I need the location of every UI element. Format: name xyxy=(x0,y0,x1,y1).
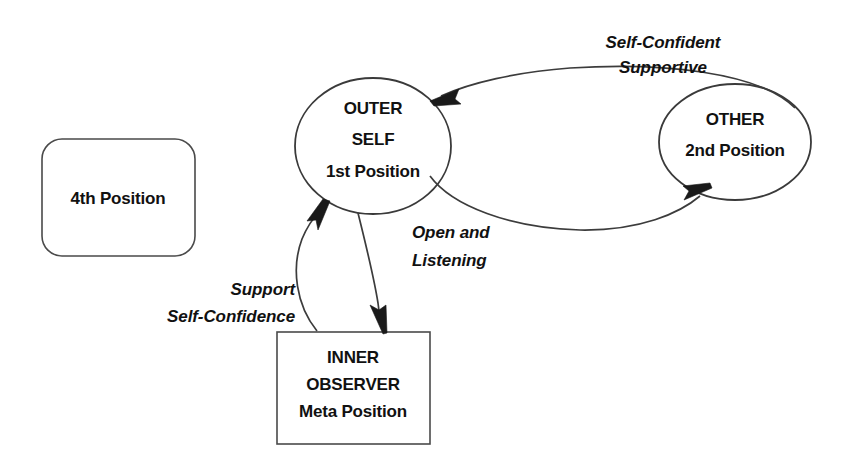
other-label-line2: 2nd Position xyxy=(685,141,785,160)
edge-label-listening: Listening xyxy=(412,251,487,270)
outer-self-label-line2: SELF xyxy=(352,130,395,149)
node-outer-self[interactable]: OUTER SELF 1st Position xyxy=(295,78,451,214)
edge-inner-observer-to-outer-self-arrowhead xyxy=(307,199,330,230)
node-fourth-position[interactable]: 4th Position xyxy=(42,139,195,256)
edge-other-to-outer-self-arrowhead xyxy=(430,89,461,106)
node-inner-observer[interactable]: INNER OBSERVER Meta Position xyxy=(277,332,430,444)
diagram-canvas: 4th Position OUTER SELF 1st Position OTH… xyxy=(0,0,855,472)
edge-inner-observer-to-outer-self-path xyxy=(296,211,320,331)
edge-label-support: Support xyxy=(231,280,297,299)
edge-outer-self-to-inner-observer xyxy=(358,213,387,334)
edge-inner-observer-to-outer-self xyxy=(296,199,330,331)
edge-label-supportive: Supportive xyxy=(619,58,707,77)
edge-label-self-confidence: Self-Confidence xyxy=(167,307,295,326)
other-label-line1: OTHER xyxy=(706,110,765,129)
perceptual-positions-diagram: 4th Position OUTER SELF 1st Position OTH… xyxy=(0,0,855,472)
fourth-position-label: 4th Position xyxy=(71,189,166,208)
outer-self-label-line3: 1st Position xyxy=(326,162,420,181)
edge-label-open-and: Open and xyxy=(412,223,490,242)
edge-outer-self-to-inner-observer-path xyxy=(358,213,380,322)
inner-observer-label-line3: Meta Position xyxy=(299,402,407,421)
outer-self-label-line1: OUTER xyxy=(344,99,403,118)
edge-other-to-outer-self-path xyxy=(441,66,795,108)
inner-observer-label-line2: OBSERVER xyxy=(306,375,400,394)
edge-label-self-confident: Self-Confident xyxy=(606,33,722,52)
edge-label-inner-observer-to-outer-self: Support Self-Confidence xyxy=(167,280,296,326)
edge-outer-self-to-other xyxy=(430,176,712,230)
edge-outer-self-to-other-path xyxy=(430,176,700,230)
edge-label-outer-self-to-inner-observer: Open and Listening xyxy=(412,223,490,270)
inner-observer-label-line1: INNER xyxy=(327,348,379,367)
edge-label-other-to-outer-self: Self-Confident Supportive xyxy=(606,33,722,77)
edge-other-to-outer-self xyxy=(430,66,795,108)
